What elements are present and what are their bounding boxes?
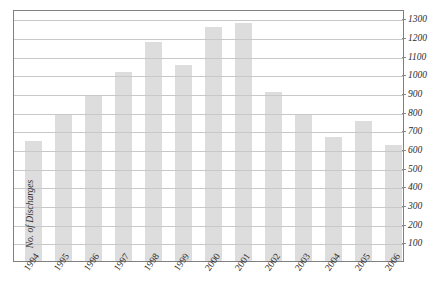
y-axis-title-text: No. of Discharges: [25, 180, 35, 249]
y-tick-mark-1100: [402, 57, 406, 58]
plot-area: [13, 10, 404, 262]
y-tick-mark-400: [402, 187, 406, 188]
y-tick-label-800: 800: [408, 108, 422, 118]
bar-1997[interactable]: [115, 72, 132, 261]
bar-2003[interactable]: [295, 115, 312, 261]
y-tick-label-200: 200: [408, 220, 422, 230]
y-axis-title: No. of Discharges: [23, 168, 37, 260]
y-tick-label-1300: 1300: [408, 14, 427, 24]
bar-chart-figure: 1002003004005006007008009001000110012001…: [0, 0, 441, 306]
y-tick-mark-600: [402, 150, 406, 151]
y-tick-mark-700: [402, 131, 406, 132]
y-tick-mark-1300: [402, 19, 406, 20]
y-tick-mark-500: [402, 169, 406, 170]
bar-1995[interactable]: [55, 115, 72, 261]
y-tick-label-300: 300: [408, 201, 422, 211]
bar-2000[interactable]: [205, 27, 222, 261]
y-tick-mark-200: [402, 225, 406, 226]
y-tick-mark-900: [402, 94, 406, 95]
y-axis-tick-labels: 1002003004005006007008009001000110012001…: [406, 10, 441, 262]
y-tick-mark-1200: [402, 38, 406, 39]
bar-2002[interactable]: [265, 92, 282, 261]
x-axis-tick-labels: 1994199519961997199819992000200120022003…: [13, 263, 404, 299]
y-tick-label-900: 900: [408, 89, 422, 99]
y-tick-label-400: 400: [408, 182, 422, 192]
bar-2001[interactable]: [235, 23, 252, 261]
y-tick-label-700: 700: [408, 126, 422, 136]
y-tick-label-500: 500: [408, 164, 422, 174]
bar-2005[interactable]: [355, 121, 372, 261]
y-tick-label-1000: 1000: [408, 70, 427, 80]
y-tick-label-1100: 1100: [408, 52, 426, 62]
y-tick-mark-100: [402, 243, 406, 244]
y-tick-label-600: 600: [408, 145, 422, 155]
figure-caption: [16, 299, 426, 306]
bar-2006[interactable]: [385, 145, 402, 261]
y-tick-mark-800: [402, 113, 406, 114]
bar-1998[interactable]: [145, 42, 162, 261]
bar-1999[interactable]: [175, 65, 192, 261]
y-tick-mark-1000: [402, 75, 406, 76]
y-tick-label-1200: 1200: [408, 33, 427, 43]
y-tick-label-100: 100: [408, 238, 422, 248]
bar-2004[interactable]: [325, 137, 342, 261]
bar-1996[interactable]: [85, 96, 102, 261]
y-tick-mark-300: [402, 206, 406, 207]
bars-layer: [14, 11, 403, 261]
